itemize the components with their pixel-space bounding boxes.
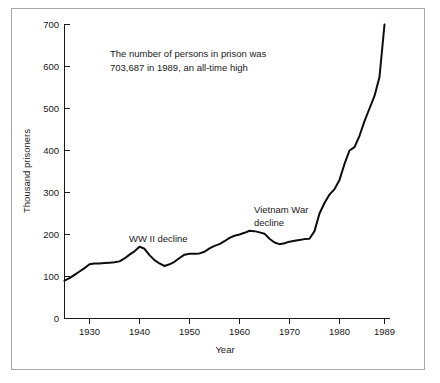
vietnam-annotation-line-1: Vietnam War: [254, 204, 308, 215]
vietnam-decline-annotation: Vietnam War decline: [254, 204, 308, 228]
x-tick-label-1940: 1940: [129, 326, 150, 337]
y-tick-label-400: 400: [43, 145, 59, 156]
x-tick-label-1950: 1950: [179, 326, 200, 337]
wwii-decline-annotation: WW II decline: [129, 233, 188, 244]
callout-line-2: 703,687 in 1989, an all-time high: [110, 62, 248, 73]
y-axis-ticks: [65, 25, 70, 319]
x-axis-tick-labels: 1930 1940 1950 1960 1970 1980 1989: [79, 326, 395, 337]
y-tick-label-100: 100: [43, 271, 59, 282]
callout-line-1: The number of persons in prison was: [110, 48, 267, 59]
x-tick-label-1980: 1980: [329, 326, 350, 337]
y-axis-title: Thousand prisoners: [21, 129, 32, 213]
vietnam-annotation-line-2: decline: [254, 217, 284, 228]
figure-root: 700 600 500 400 300 200 100 0 1930 1940 …: [0, 0, 440, 383]
x-tick-label-1960: 1960: [229, 326, 250, 337]
y-tick-label-300: 300: [43, 187, 59, 198]
y-tick-label-600: 600: [43, 61, 59, 72]
y-tick-label-200: 200: [43, 229, 59, 240]
y-tick-label-700: 700: [43, 19, 59, 30]
prison-population-line-chart: 700 600 500 400 300 200 100 0 1930 1940 …: [0, 0, 440, 383]
y-tick-label-500: 500: [43, 103, 59, 114]
x-axis-ticks: [90, 319, 385, 324]
callout-annotation: The number of persons in prison was 703,…: [110, 48, 267, 73]
y-tick-label-0: 0: [54, 313, 59, 324]
y-axis-tick-labels: 700 600 500 400 300 200 100 0: [43, 19, 59, 324]
x-tick-label-1989: 1989: [374, 326, 395, 337]
x-tick-label-1970: 1970: [279, 326, 300, 337]
x-tick-label-1930: 1930: [79, 326, 100, 337]
x-axis-title: Year: [215, 344, 234, 355]
